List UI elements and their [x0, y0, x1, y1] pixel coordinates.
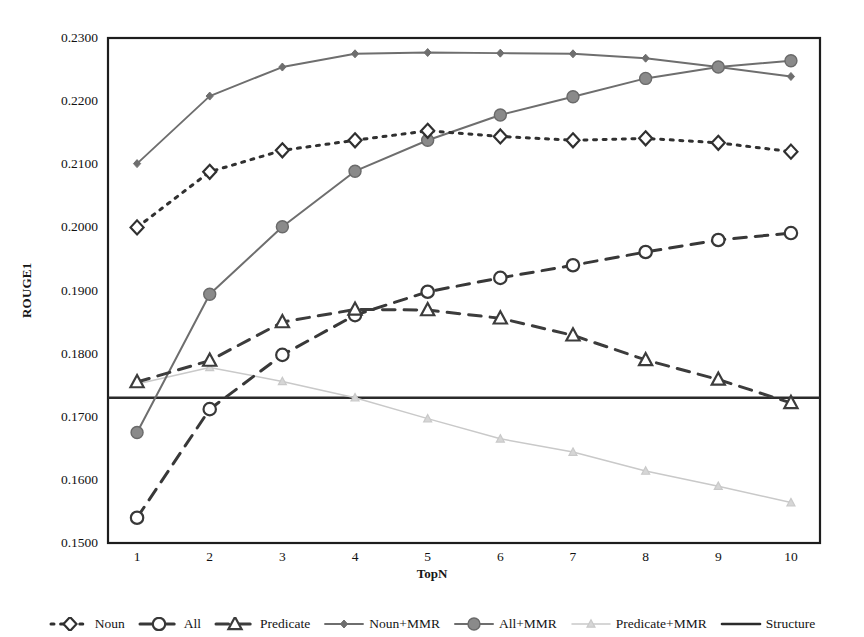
data-point-marker [204, 403, 216, 415]
series-all-plus-mmr [131, 55, 797, 439]
data-point-marker [712, 61, 724, 73]
legend-key-open-diamond-icon [49, 617, 91, 631]
x-axis-tick-label: 7 [553, 549, 593, 565]
data-point-marker [349, 165, 361, 177]
series-predicate-plus-mmr [133, 363, 795, 505]
data-point-marker [639, 131, 652, 145]
chart-figure: ROUGE1 0.23000.22000.21000.20000.19000.1… [0, 0, 864, 637]
x-axis-tick-label: 9 [698, 549, 738, 565]
data-point-marker [349, 133, 362, 147]
data-point-marker [569, 50, 576, 58]
data-point-marker [131, 512, 143, 524]
legend-item-structure[interactable]: Structure [720, 617, 816, 631]
data-point-marker [204, 288, 216, 300]
x-axis-title: TopN [0, 566, 864, 582]
data-point-marker [421, 286, 433, 298]
series-all [131, 227, 797, 524]
plot-area [0, 0, 864, 637]
legend-item-noun-plus-mmr[interactable]: Noun+MMR [323, 617, 440, 631]
data-point-marker [642, 54, 649, 62]
legend-label: All+MMR [499, 617, 557, 631]
data-point-marker [640, 72, 652, 84]
legend-label: Predicate [260, 617, 310, 631]
data-point-marker [203, 165, 216, 179]
data-point-marker [787, 73, 794, 81]
legend-item-noun[interactable]: Noun [49, 617, 125, 631]
legend-item-all-plus-mmr[interactable]: All+MMR [453, 617, 557, 631]
data-point-marker [279, 63, 286, 71]
legend-label: Noun+MMR [369, 617, 440, 631]
chart-legend: NounAllPredicateNoun+MMRAll+MMRPredicate… [0, 617, 864, 631]
x-axis-tick-label: 6 [480, 549, 520, 565]
data-point-marker [203, 354, 216, 366]
data-point-marker [494, 129, 507, 143]
legend-label: Noun [95, 617, 125, 631]
data-point-marker [276, 143, 289, 157]
legend-label: Structure [766, 617, 816, 631]
series-noun [131, 124, 798, 235]
data-point-marker [494, 109, 506, 121]
series-noun-plus-mmr [133, 49, 794, 168]
data-point-marker [341, 620, 348, 628]
legend-item-all[interactable]: All [138, 617, 201, 631]
data-point-marker [712, 373, 725, 385]
x-axis-tick-label: 10 [771, 549, 811, 565]
data-point-marker [468, 618, 480, 630]
data-point-marker [276, 349, 288, 361]
x-axis-tick-label: 3 [262, 549, 302, 565]
legend-item-predicate-plus-mmr[interactable]: Predicate+MMR [570, 617, 707, 631]
data-point-marker [639, 246, 651, 258]
data-point-marker [567, 259, 579, 271]
data-point-marker [348, 302, 361, 314]
data-point-marker [785, 227, 797, 239]
data-point-marker [566, 328, 579, 340]
data-point-marker [566, 133, 579, 147]
data-point-marker [784, 145, 797, 159]
data-point-marker [63, 617, 76, 631]
data-point-marker [424, 49, 431, 57]
data-point-marker [785, 55, 797, 67]
x-axis-tick-label: 2 [190, 549, 230, 565]
legend-item-predicate[interactable]: Predicate [214, 617, 310, 631]
data-point-marker [351, 50, 358, 58]
x-axis-tick-label: 5 [408, 549, 448, 565]
data-point-marker [494, 272, 506, 284]
legend-key-filled-small-triangle-icon [570, 617, 612, 631]
legend-label: Predicate+MMR [616, 617, 707, 631]
x-axis-tick-label: 8 [626, 549, 666, 565]
data-point-marker [131, 220, 144, 234]
data-point-marker [712, 136, 725, 150]
data-point-marker [276, 221, 288, 233]
data-point-marker [567, 91, 579, 103]
data-point-marker [497, 49, 504, 57]
x-axis-tick-label: 4 [335, 549, 375, 565]
data-point-marker [131, 427, 143, 439]
x-axis-tick-label: 1 [117, 549, 157, 565]
legend-key-none-icon [720, 617, 762, 631]
legend-key-filled-small-diamond-icon [323, 617, 365, 631]
legend-key-filled-circle-icon [453, 617, 495, 631]
data-point-marker [712, 234, 724, 246]
legend-key-open-triangle-icon [214, 617, 256, 631]
legend-label: All [184, 617, 201, 631]
data-point-marker [153, 618, 165, 630]
legend-key-open-circle-icon [138, 617, 180, 631]
